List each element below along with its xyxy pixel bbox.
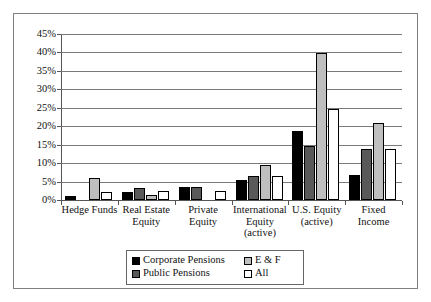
bar	[191, 187, 202, 200]
bar	[146, 195, 157, 200]
y-axis-tick-label: 5%	[19, 176, 61, 187]
y-axis-tick	[57, 126, 61, 127]
bar	[385, 149, 396, 200]
y-axis-tick	[57, 71, 61, 72]
x-axis-tick	[402, 201, 403, 205]
bar	[236, 180, 247, 200]
bar	[65, 196, 76, 200]
chart-frame: 45%40%35%30%25%20%15%10%5%0% Corporate P…	[13, 13, 418, 289]
legend-label: Corporate Pensions	[143, 255, 225, 266]
bar	[134, 188, 145, 200]
y-axis-tick	[57, 108, 61, 109]
category-label-line: Hedge Funds	[61, 204, 118, 216]
category-label-line: U.S. Equity	[288, 204, 345, 216]
legend-swatch-icon	[244, 257, 252, 265]
bar	[260, 165, 271, 200]
plot-area	[61, 34, 402, 200]
category-label-line: Private	[175, 204, 232, 216]
x-axis-category-label: U.S. Equity(active)	[288, 204, 345, 227]
legend-swatch-icon	[244, 270, 252, 278]
bar	[248, 176, 259, 200]
bar-group-bars	[288, 34, 345, 200]
bar	[215, 191, 226, 200]
x-axis-category-label: Real EstateEquity	[118, 204, 175, 227]
bar-group	[175, 34, 232, 200]
category-label-line: Equity	[232, 216, 289, 228]
legend-label: E & F	[255, 255, 281, 266]
category-label-line: Equity	[175, 216, 232, 228]
category-label-line: Real Estate	[118, 204, 175, 216]
category-label-line: International	[232, 204, 289, 216]
y-axis-tick-label: 15%	[19, 139, 61, 150]
y-axis-tick-label: 10%	[19, 158, 61, 169]
x-axis-category-label: Hedge Funds	[61, 204, 118, 216]
y-axis-tick-label: 0%	[19, 195, 61, 206]
y-axis-tick-label: 25%	[19, 103, 61, 114]
bar-group	[345, 34, 402, 200]
bar	[158, 191, 169, 200]
y-axis-tick-label: 35%	[19, 66, 61, 77]
bar	[328, 109, 339, 200]
category-label-line: Income	[345, 216, 402, 228]
bar-group-bars	[118, 34, 175, 200]
bar	[361, 149, 372, 200]
bar-group	[61, 34, 118, 200]
bar	[179, 187, 190, 200]
legend-entry-corporate-pensions: Corporate Pensions	[132, 255, 244, 266]
legend-swatch-icon	[132, 257, 140, 265]
legend-swatch-icon	[132, 270, 140, 278]
legend-entry-public-pensions: Public Pensions	[132, 268, 244, 279]
y-axis-tick	[57, 34, 61, 35]
x-axis-category-label: FixedIncome	[345, 204, 402, 227]
bar	[101, 192, 112, 200]
bar	[89, 178, 100, 201]
bar	[349, 175, 360, 200]
y-axis-tick-label: 45%	[19, 29, 61, 40]
bar-group-bars	[175, 34, 232, 200]
legend-row: Corporate Pensions E & F	[132, 254, 298, 267]
y-axis-tick-label: 30%	[19, 84, 61, 95]
bar	[373, 123, 384, 200]
category-label-line: Equity	[118, 216, 175, 228]
legend-entry-all: All	[244, 268, 268, 279]
y-axis-tick	[57, 52, 61, 53]
bar-group-bars	[232, 34, 289, 200]
chart-legend: Corporate Pensions E & F Public Pensions…	[126, 250, 304, 285]
y-axis-tick	[57, 145, 61, 146]
bar	[272, 176, 283, 200]
category-label-line: (active)	[288, 216, 345, 228]
y-axis-tick-label: 20%	[19, 121, 61, 132]
x-axis-category-label: InternationalEquity(active)	[232, 204, 289, 239]
y-axis-tick	[57, 182, 61, 183]
bar-group-bars	[61, 34, 118, 200]
category-label-line: (active)	[232, 227, 289, 239]
bar	[316, 53, 327, 200]
legend-entry-e-and-f: E & F	[244, 255, 281, 266]
y-axis-tick-label: 40%	[19, 47, 61, 58]
bar-group	[232, 34, 289, 200]
legend-row: Public Pensions All	[132, 267, 298, 280]
bar-group	[288, 34, 345, 200]
bar	[122, 192, 133, 200]
bar-group-bars	[345, 34, 402, 200]
y-axis-tick	[57, 163, 61, 164]
y-axis-tick	[57, 89, 61, 90]
bar-group	[118, 34, 175, 200]
legend-label: Public Pensions	[143, 268, 210, 279]
legend-label: All	[255, 268, 268, 279]
category-label-line: Fixed	[345, 204, 402, 216]
bar	[304, 146, 315, 200]
x-axis-category-label: PrivateEquity	[175, 204, 232, 227]
bar	[292, 131, 303, 200]
y-axis-labels: 45%40%35%30%25%20%15%10%5%0%	[14, 34, 61, 201]
